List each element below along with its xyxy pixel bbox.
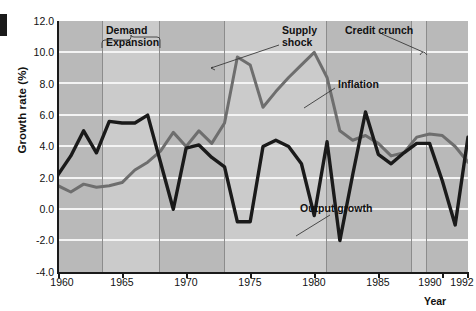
y-tick-label: 10.0	[34, 46, 54, 58]
series-line-output-growth	[58, 112, 468, 241]
annotation-demand-expansion: Demand Expansion	[106, 24, 159, 48]
y-tick-label: 8.0	[39, 78, 54, 90]
x-axis-line	[57, 272, 469, 274]
series-lines	[58, 21, 468, 272]
annotation-line-2: shock	[282, 36, 312, 48]
annotation-line-1: Supply	[282, 24, 317, 36]
x-tick-mark	[442, 272, 444, 278]
annotation-line-1: Credit crunch	[345, 24, 413, 36]
y-axis-line	[57, 21, 59, 274]
y-tick-label: 4.0	[39, 140, 54, 152]
annotation-line-1: Output growth	[300, 202, 372, 214]
annotation-line-1: Demand	[106, 24, 147, 36]
x-tick-label: 1992	[450, 276, 473, 288]
x-tick-label: 1965	[110, 276, 133, 288]
x-tick-label: 1975	[238, 276, 261, 288]
x-tick-label: 1985	[366, 276, 389, 288]
annotation-line-1: Inflation	[338, 78, 379, 90]
y-tick-label: 6.0	[39, 109, 54, 121]
y-tick-label: 2.0	[39, 172, 54, 184]
y-axis-tick-labels: 12.0 10.0 8.0 6.0 4.0 2.0 0.0 -2.0 -4.0	[0, 0, 54, 311]
annotation-credit-crunch: Credit crunch	[345, 24, 413, 36]
y-tick-label: -2.0	[36, 234, 54, 246]
annotation-inflation: Inflation	[338, 78, 379, 90]
y-tick-label: 0.0	[39, 203, 54, 215]
x-axis-title: Year	[424, 295, 446, 307]
x-tick-label: 1990	[418, 276, 441, 288]
annotation-supply-shock: Supply shock	[282, 24, 317, 48]
x-tick-label: 1970	[174, 276, 197, 288]
x-tick-label: 1960	[50, 276, 73, 288]
annotation-line-2: Expansion	[106, 36, 159, 48]
annotation-output-growth: Output growth	[300, 202, 372, 214]
x-tick-label: 1980	[302, 276, 325, 288]
figure: Growth rate (%) 12.0 10.0 8.0 6.0 4.0 2.…	[0, 0, 476, 311]
y-tick-label: 12.0	[34, 15, 54, 27]
